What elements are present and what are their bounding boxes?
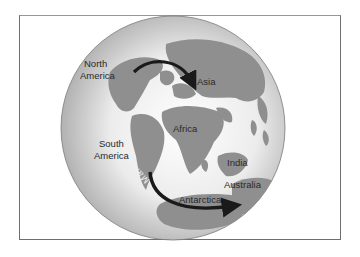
- label-australia: Australia: [224, 179, 262, 190]
- globe-diagram: Marsupialia North America Asia Africa So…: [0, 0, 360, 257]
- label-india: India: [227, 157, 248, 168]
- label-south-america-2: America: [94, 150, 130, 161]
- label-north-america-2: America: [80, 70, 116, 81]
- label-asia: Asia: [197, 76, 216, 87]
- label-north-america-1: North: [84, 58, 107, 69]
- label-africa: Africa: [173, 123, 198, 134]
- label-antarctica: Antarctica: [179, 194, 222, 205]
- label-south-america-1: South: [99, 138, 124, 149]
